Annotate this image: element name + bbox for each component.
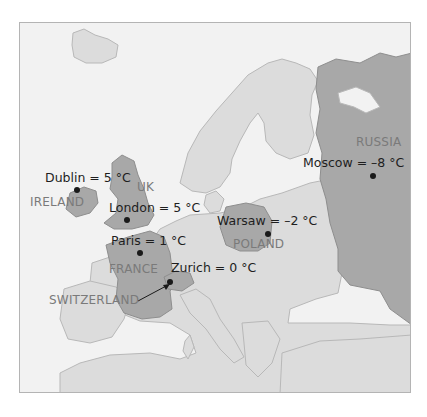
zurich-dot	[167, 279, 173, 285]
london-dot	[124, 217, 130, 223]
france-label: FRANCE	[109, 263, 158, 275]
iceland-shape	[72, 29, 118, 63]
europe-map: Dublin = 5 °C London = 5 °C Paris = 1 °C…	[19, 22, 411, 393]
uk-label: UK	[137, 181, 154, 193]
london-label: London = 5 °C	[109, 202, 200, 215]
moscow-dot	[370, 173, 376, 179]
moscow-label: Moscow = –8 °C	[303, 157, 404, 170]
dublin-label: Dublin = 5 °C	[45, 172, 131, 185]
ireland-label: IRELAND	[30, 196, 84, 208]
dublin-dot	[74, 187, 80, 193]
poland-label: POLAND	[233, 238, 284, 250]
russia-label: RUSSIA	[356, 136, 401, 148]
warsaw-label: Warsaw = –2 °C	[217, 215, 317, 228]
scandinavia-shape	[180, 59, 318, 193]
zurich-label: Zurich = 0 °C	[171, 262, 256, 275]
paris-dot	[137, 250, 143, 256]
denmark-shape	[204, 191, 224, 213]
switzerland-label: SWITZERLAND	[49, 294, 139, 306]
paris-label: Paris = 1 °C	[111, 235, 186, 248]
